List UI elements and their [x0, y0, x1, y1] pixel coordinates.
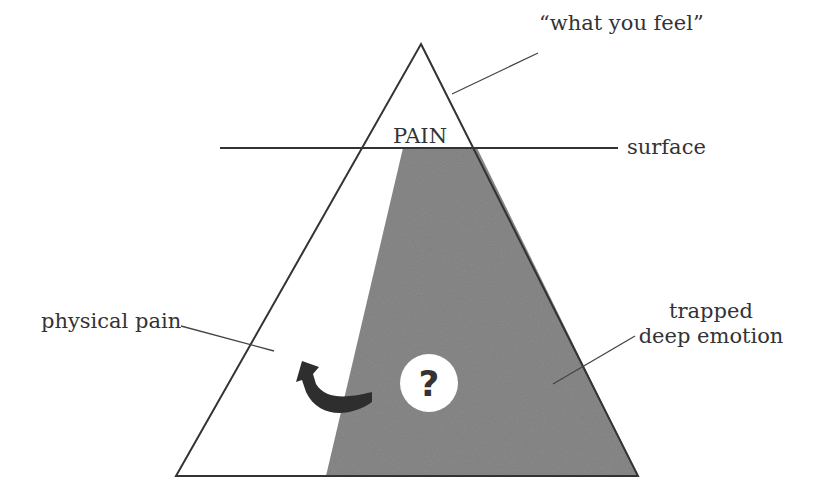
- question-circle-icon: ?: [400, 354, 458, 412]
- label-surface: surface: [627, 135, 706, 159]
- question-mark: ?: [419, 363, 440, 404]
- label-deep-emotion: deep emotion: [639, 324, 784, 348]
- label-trapped: trapped: [669, 299, 753, 323]
- label-what-you-feel: “what you feel”: [539, 11, 704, 35]
- trapped-emotion-region: [326, 148, 638, 476]
- label-physical-pain: physical pain: [41, 309, 181, 333]
- what-you-feel-leader: [452, 53, 538, 94]
- pain-iceberg-diagram: ? PAIN “what you feel” surface physical …: [0, 0, 829, 503]
- label-pain: PAIN: [393, 124, 447, 148]
